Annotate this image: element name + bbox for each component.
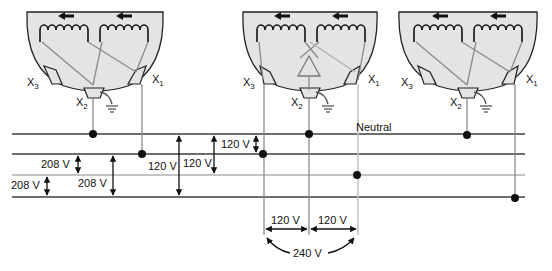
terminal-x2-label: X2 [291, 96, 303, 111]
voltage-label-208v: 208 V [41, 158, 70, 170]
terminal-x3-label: X3 [27, 76, 39, 91]
terminal-x1-label: X1 [526, 73, 538, 88]
voltage-label-120v: 120 V [183, 157, 212, 169]
junction-dot [511, 194, 519, 202]
junction-dot [89, 130, 97, 138]
ground-icon [480, 106, 492, 112]
transformer-right: X3 X2 X1 [399, 12, 538, 202]
terminal-x2-label: X2 [76, 96, 88, 111]
junction-dot [353, 171, 361, 179]
transformer-dome [27, 12, 163, 91]
junction-dot [305, 130, 313, 138]
terminal-x3-label: X3 [401, 76, 413, 91]
bushing-x2 [458, 88, 478, 98]
junction-dot [259, 150, 267, 158]
terminal-x1-label: X1 [152, 73, 164, 88]
voltage-label-240v: 240 V [293, 247, 322, 259]
neutral-label: Neutral [356, 121, 391, 133]
terminal-x2-label: X2 [450, 96, 462, 111]
ground-icon [106, 106, 118, 112]
voltage-label-120v: 120 V [148, 160, 177, 172]
voltage-label-120v-left: 120 V [271, 214, 300, 226]
junction-dot [138, 150, 146, 158]
voltage-label-208v: 208 V [11, 179, 40, 191]
bushing-x2 [300, 88, 320, 98]
voltage-label-120v: 120 V [221, 138, 250, 150]
voltage-label-120v-right: 120 V [318, 214, 347, 226]
voltage-label-208v: 208 V [78, 177, 107, 189]
transformer-left: X3 X2 X1 [27, 12, 164, 158]
terminal-x3-label: X3 [243, 76, 255, 91]
service-diagram: X3 X2 X1 X3 X2 X1 [0, 0, 552, 271]
junction-dot [463, 131, 471, 139]
ground-icon [322, 106, 334, 112]
bushing-x2 [84, 88, 104, 98]
terminal-x1-label: X1 [368, 73, 380, 88]
